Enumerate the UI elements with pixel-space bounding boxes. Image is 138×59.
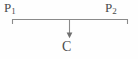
node-label-left-subscript: 1 [11, 6, 16, 16]
arrow-head-icon [67, 33, 73, 39]
node-label-right-subscript: 2 [112, 6, 117, 16]
node-label-target: C [62, 40, 71, 54]
node-label-right-endpoint: P2 [105, 1, 117, 14]
diagram-canvas: P1 P2 C [0, 0, 138, 59]
center-arrow [67, 20, 73, 39]
node-label-left-endpoint: P1 [4, 1, 16, 14]
